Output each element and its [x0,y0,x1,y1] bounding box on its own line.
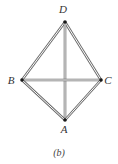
edge-DC-inner [65,22,101,80]
node-C-label: C [104,74,112,86]
diagram-figure: DBCA (b) [0,0,118,164]
nodes-group [20,20,103,122]
node-C-point [99,78,103,82]
edge-DB-inner [22,22,65,80]
edges-group [22,22,101,120]
node-A-point [63,118,67,122]
edge-CA-inner [65,80,101,120]
tetrahedron-graph: DBCA (b) [0,0,118,164]
edge-BA-inner [22,80,65,120]
node-B-label: B [8,74,15,86]
node-B-point [20,78,24,82]
node-D-point [63,20,67,24]
node-A-label: A [60,123,68,135]
figure-caption: (b) [53,147,65,159]
node-D-label: D [58,3,67,15]
